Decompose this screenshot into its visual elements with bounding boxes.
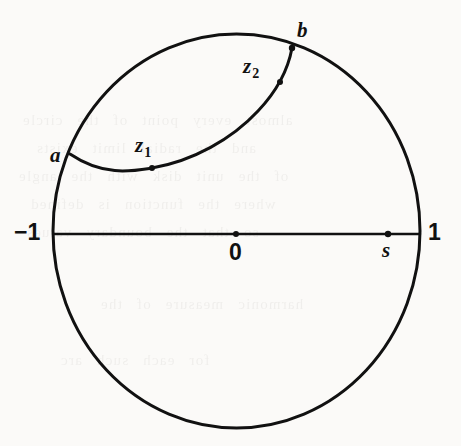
point-marker-s [385,231,391,237]
disk-figure-svg [0,0,461,446]
point-marker-b [289,45,295,51]
label-minus-one: −1 [14,221,40,244]
label-z1: z1 [135,135,150,156]
label-z2-subscript: 2 [252,66,259,81]
label-b: b [297,20,308,41]
label-a: a [50,145,61,166]
point-marker-z1 [149,165,155,171]
label-z2-base: z [243,54,251,78]
label-s: s [382,240,390,261]
label-z2: z2 [243,56,258,77]
point-marker-z2 [277,79,283,85]
label-z1-base: z [135,133,143,157]
label-one: 1 [428,221,441,244]
label-zero: 0 [229,241,242,264]
point-marker-0 [233,231,239,237]
label-z1-subscript: 1 [144,145,151,160]
unit-circle [53,34,420,428]
figure-container: almost every point of the circleand the … [0,0,461,446]
